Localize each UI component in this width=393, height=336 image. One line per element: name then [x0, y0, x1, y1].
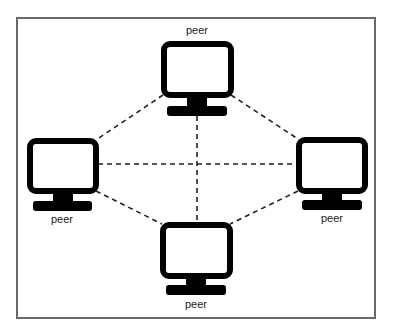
peer-label-right: peer [302, 212, 362, 224]
link-right-bottom [230, 191, 298, 224]
peer-label-left: peer [32, 213, 92, 225]
link-top-left [96, 95, 163, 140]
monitor-icon [299, 140, 365, 210]
monitor-icon [30, 141, 96, 211]
monitor-icon [163, 225, 230, 295]
peer-label-top: peer [167, 24, 227, 36]
peer-label-bottom: peer [166, 298, 226, 310]
link-left-bottom [96, 191, 162, 224]
network-diagram [0, 0, 393, 336]
monitor-icon [164, 44, 231, 116]
link-top-right [231, 95, 298, 139]
